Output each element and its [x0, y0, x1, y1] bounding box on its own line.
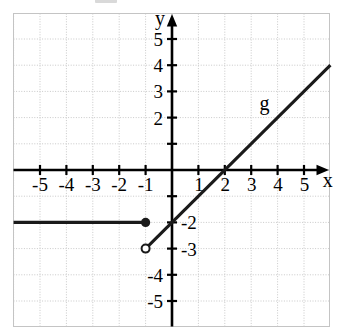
coordinate-plane: -5-4-3-2-1123455432-2-3-4-5 gxy	[0, 0, 339, 336]
canvas-background	[0, 0, 339, 336]
x-tick-label-neg4: -4	[58, 174, 74, 195]
curve-label-g: g	[259, 92, 269, 115]
x-tick-label-5: 5	[300, 174, 310, 195]
y-tick-label-5: 5	[154, 29, 164, 50]
y-tick-label-3: 3	[154, 81, 164, 102]
x-tick-label-3: 3	[247, 174, 257, 195]
y-tick-label-2: 2	[154, 108, 164, 129]
x-tick-label-neg5: -5	[32, 174, 48, 195]
y-tick-label-neg5: -5	[147, 291, 163, 312]
x-axis-label: x	[323, 169, 333, 191]
y-tick-label-4: 4	[154, 55, 164, 76]
x-tick-label-1: 1	[194, 174, 204, 195]
x-tick-label-neg3: -3	[85, 174, 101, 195]
open-endpoint	[142, 245, 150, 253]
y-tick-label-neg2: -2	[181, 212, 197, 233]
x-tick-label-4: 4	[273, 174, 283, 195]
y-tick-label-neg3: -3	[181, 239, 197, 260]
top-edge-artifact	[95, 0, 117, 3]
graph-figure: -5-4-3-2-1123455432-2-3-4-5 gxy	[0, 0, 339, 336]
y-tick-label-neg4: -4	[147, 265, 163, 286]
x-tick-label-neg1: -1	[138, 174, 154, 195]
x-tick-label-2: 2	[221, 174, 231, 195]
x-tick-label-neg2: -2	[111, 174, 127, 195]
closed-endpoint	[141, 218, 150, 227]
y-axis-label: y	[155, 7, 165, 30]
